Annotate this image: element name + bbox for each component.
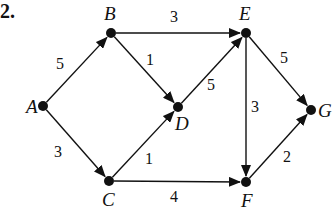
edge-f-g <box>249 114 307 178</box>
edge-weight-e-f: 3 <box>251 98 259 115</box>
edge-weight-e-g: 5 <box>280 49 288 66</box>
node-label-g: G <box>318 100 332 121</box>
edge-b-d <box>114 37 174 103</box>
edge-d-e <box>181 37 242 103</box>
node-label-d: D <box>174 113 189 134</box>
edge-weight-c-f: 4 <box>170 188 178 205</box>
edge-weight-a-c: 3 <box>54 143 62 160</box>
node-a <box>38 101 48 111</box>
node-e <box>241 28 251 38</box>
graph-diagram: 5331145532ABCDEFG 2. <box>0 0 334 211</box>
edge-e-g <box>249 37 307 106</box>
node-label-c: C <box>102 189 115 210</box>
edge-c-f <box>114 181 240 182</box>
node-g <box>306 105 316 115</box>
edge-weight-b-e: 3 <box>170 8 178 25</box>
directed-graph-canvas: 5331145532ABCDEFG 2. <box>0 0 334 211</box>
node-label-e: E <box>238 3 251 24</box>
node-d <box>173 102 183 112</box>
edge-weight-f-g: 2 <box>283 148 291 165</box>
nodes-layer <box>38 28 316 187</box>
edge-weight-a-b: 5 <box>56 55 64 72</box>
problem-number: 2. <box>0 0 15 22</box>
edge-weight-b-d: 1 <box>146 51 154 68</box>
node-c <box>104 176 114 186</box>
node-label-f: F <box>240 190 253 211</box>
edge-weight-d-e: 5 <box>207 76 215 93</box>
node-label-a: A <box>24 96 38 117</box>
node-b <box>106 28 116 38</box>
edge-weight-c-d: 1 <box>145 150 153 167</box>
node-label-b: B <box>104 3 116 24</box>
node-f <box>241 177 251 187</box>
edge-c-d <box>112 111 173 177</box>
